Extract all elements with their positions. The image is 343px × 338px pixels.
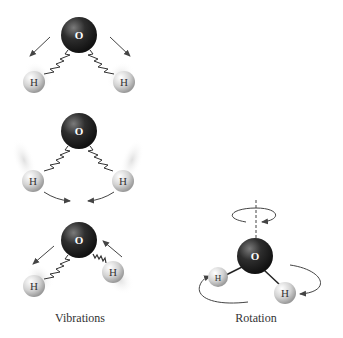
svg-text:O: O xyxy=(75,125,84,137)
svg-text:H: H xyxy=(29,175,37,187)
svg-text:H: H xyxy=(120,76,128,88)
svg-text:O: O xyxy=(75,29,84,41)
svg-text:O: O xyxy=(251,250,260,262)
rotation-arrow-icon xyxy=(232,208,275,222)
arrow-icon xyxy=(110,37,130,56)
arrow-icon xyxy=(33,246,54,264)
svg-text:H: H xyxy=(215,273,222,283)
arrow-icon xyxy=(30,37,50,56)
spring-bond xyxy=(93,254,106,263)
svg-text:O: O xyxy=(75,234,84,246)
bond xyxy=(264,270,280,285)
svg-text:H: H xyxy=(281,287,289,299)
svg-text:H: H xyxy=(109,266,117,278)
arrow-icon xyxy=(88,192,114,201)
svg-text:H: H xyxy=(30,280,38,292)
arrow-icon xyxy=(44,192,70,201)
vibration-panel-2: O H H xyxy=(7,113,149,201)
vibrations-label: Vibrations xyxy=(55,311,105,326)
spring-bond xyxy=(88,146,113,171)
vibration-panel-1: O H H xyxy=(19,17,140,96)
svg-text:H: H xyxy=(30,76,38,88)
arrow-icon xyxy=(103,241,122,257)
rotation-label: Rotation xyxy=(235,311,276,326)
water-motions-diagram: O H H O H H O H H xyxy=(0,0,343,338)
svg-text:H: H xyxy=(119,175,127,187)
rotation-panel: O H H xyxy=(199,200,320,304)
spring-bond xyxy=(44,146,70,171)
vibration-panel-3: O H H xyxy=(21,222,140,300)
